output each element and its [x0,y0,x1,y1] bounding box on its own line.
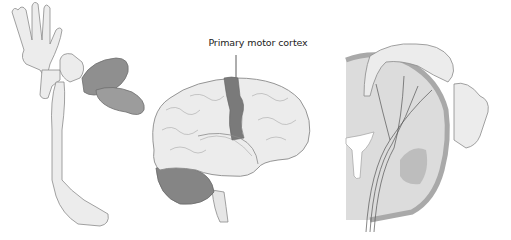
brainstem-shape [212,190,228,222]
tongue-shape [96,87,144,114]
hand-shape [12,2,62,80]
lateral-brain-illustration [140,0,340,240]
coronal-section-illustration [330,0,511,240]
homunculus-illustration [0,0,150,240]
section-face-shape [454,83,488,148]
primary-motor-cortex-label: Primary motor cortex [193,37,323,48]
leg-shape [52,82,109,226]
head-shape [60,54,84,82]
